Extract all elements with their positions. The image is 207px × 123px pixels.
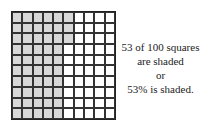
- shaded-square: [12, 44, 22, 55]
- shaded-square: [22, 12, 32, 23]
- shaded-square: [22, 98, 32, 109]
- caption-line-2: are shaded: [114, 54, 207, 68]
- shaded-square: [53, 87, 63, 98]
- unshaded-square: [84, 23, 94, 34]
- shaded-square: [12, 76, 22, 87]
- shaded-square: [12, 87, 22, 98]
- unshaded-square: [74, 55, 84, 66]
- shaded-square: [43, 108, 53, 119]
- unshaded-square: [63, 55, 73, 66]
- unshaded-square: [94, 87, 104, 98]
- unshaded-square: [74, 23, 84, 34]
- shaded-square: [63, 23, 73, 34]
- shaded-square: [43, 23, 53, 34]
- unshaded-square: [84, 55, 94, 66]
- shaded-square: [53, 12, 63, 23]
- unshaded-square: [94, 23, 104, 34]
- shaded-square: [53, 33, 63, 44]
- unshaded-square: [63, 65, 73, 76]
- shaded-square: [33, 55, 43, 66]
- shaded-square: [33, 12, 43, 23]
- shaded-square: [43, 76, 53, 87]
- shaded-square: [33, 23, 43, 34]
- unshaded-square: [94, 44, 104, 55]
- caption-line-4: 53% is shaded.: [114, 82, 207, 96]
- shaded-square: [53, 44, 63, 55]
- unshaded-square: [74, 108, 84, 119]
- caption-line-3: or: [114, 68, 207, 82]
- unshaded-square: [74, 33, 84, 44]
- caption: 53 of 100 squares are shaded or 53% is s…: [114, 40, 207, 96]
- unshaded-square: [94, 108, 104, 119]
- unshaded-square: [105, 108, 115, 119]
- shaded-square: [53, 98, 63, 109]
- shaded-square: [33, 65, 43, 76]
- unshaded-square: [84, 98, 94, 109]
- shaded-square: [12, 12, 22, 23]
- hundred-square-grid: [11, 11, 116, 120]
- shaded-square: [22, 65, 32, 76]
- unshaded-square: [84, 44, 94, 55]
- shaded-square: [12, 23, 22, 34]
- shaded-square: [22, 108, 32, 119]
- shaded-square: [22, 55, 32, 66]
- unshaded-square: [84, 87, 94, 98]
- unshaded-square: [94, 65, 104, 76]
- unshaded-square: [63, 98, 73, 109]
- unshaded-square: [105, 98, 115, 109]
- unshaded-square: [74, 44, 84, 55]
- unshaded-square: [94, 98, 104, 109]
- shaded-square: [43, 87, 53, 98]
- shaded-square: [43, 55, 53, 66]
- shaded-square: [12, 98, 22, 109]
- shaded-square: [22, 33, 32, 44]
- unshaded-square: [94, 55, 104, 66]
- shaded-square: [22, 44, 32, 55]
- unshaded-square: [94, 12, 104, 23]
- shaded-square: [63, 33, 73, 44]
- unshaded-square: [84, 108, 94, 119]
- shaded-square: [33, 44, 43, 55]
- unshaded-square: [63, 76, 73, 87]
- shaded-square: [33, 108, 43, 119]
- shaded-square: [12, 33, 22, 44]
- unshaded-square: [94, 33, 104, 44]
- shaded-square: [12, 55, 22, 66]
- shaded-square: [22, 23, 32, 34]
- unshaded-square: [63, 108, 73, 119]
- unshaded-square: [94, 76, 104, 87]
- unshaded-square: [84, 33, 94, 44]
- unshaded-square: [105, 23, 115, 34]
- unshaded-square: [74, 65, 84, 76]
- unshaded-square: [84, 76, 94, 87]
- shaded-square: [43, 65, 53, 76]
- shaded-square: [33, 98, 43, 109]
- shaded-square: [12, 108, 22, 119]
- shaded-square: [53, 23, 63, 34]
- shaded-square: [22, 87, 32, 98]
- shaded-square: [53, 55, 63, 66]
- unshaded-square: [74, 76, 84, 87]
- shaded-square: [33, 87, 43, 98]
- shaded-square: [33, 76, 43, 87]
- unshaded-square: [63, 87, 73, 98]
- shaded-square: [53, 108, 63, 119]
- shaded-square: [33, 33, 43, 44]
- shaded-square: [63, 12, 73, 23]
- unshaded-square: [63, 44, 73, 55]
- shaded-square: [43, 33, 53, 44]
- shaded-square: [12, 65, 22, 76]
- unshaded-square: [74, 98, 84, 109]
- unshaded-square: [74, 87, 84, 98]
- shaded-square: [53, 65, 63, 76]
- unshaded-square: [84, 65, 94, 76]
- unshaded-square: [74, 12, 84, 23]
- unshaded-square: [84, 12, 94, 23]
- shaded-square: [22, 76, 32, 87]
- caption-line-1: 53 of 100 squares: [114, 40, 207, 54]
- unshaded-square: [105, 12, 115, 23]
- shaded-square: [53, 76, 63, 87]
- shaded-square: [43, 44, 53, 55]
- shaded-square: [43, 98, 53, 109]
- shaded-square: [43, 12, 53, 23]
